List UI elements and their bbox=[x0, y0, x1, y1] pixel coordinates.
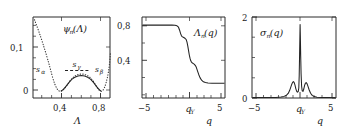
panel-3-xtick-max: 5 bbox=[328, 103, 333, 113]
three-panel-figure: s α s γ s β ψ n (Λ) 0,1 0 0,4 0,8 bbox=[0, 0, 346, 130]
panel-3-xtick-min: −5 bbox=[248, 103, 261, 113]
panel-1-xtick-1: 0,8 bbox=[92, 103, 106, 113]
panel-2-xtick-max: 5 bbox=[217, 103, 222, 113]
panel-3-plot: σ n (q) 2 0 −5 q Y 5 q bbox=[226, 0, 346, 130]
panel-1-xaxis-label: Λ bbox=[73, 115, 81, 126]
qy-subscript: Y bbox=[191, 108, 196, 115]
annotation-s-beta: s β bbox=[95, 65, 104, 76]
panel-1-ytick-0: 0,1 bbox=[10, 43, 24, 53]
s-gamma-label: s bbox=[73, 60, 77, 69]
panel-1-xtick-0: 0,4 bbox=[53, 103, 67, 113]
panel-3-xtick-qy: q Y bbox=[296, 103, 306, 115]
panel-2-ytick-0: 0,8 bbox=[117, 21, 131, 31]
panel-2-plot: Λ n (q) 0,8 0,4 −5 q Y 5 q bbox=[112, 0, 230, 130]
s-gamma-sub: γ bbox=[77, 63, 81, 71]
panel-1-ytick-1: 0 bbox=[23, 86, 28, 96]
panel-2-xtick-min: −5 bbox=[138, 103, 151, 113]
panel-1-curve-title: ψ n (Λ) bbox=[63, 23, 87, 35]
panel-psi-n-lambda: s α s γ s β ψ n (Λ) 0,1 0 0,4 0,8 bbox=[0, 0, 116, 130]
panel-1-plot: s α s γ s β ψ n (Λ) 0,1 0 0,4 0,8 bbox=[0, 0, 116, 130]
panel-2-xaxis-label: q bbox=[206, 115, 212, 126]
panel-3-curve-title: σ n (q) bbox=[260, 27, 284, 39]
panel-3-ytick-0: 2 bbox=[242, 13, 247, 23]
panel-3-ytick-1: 0 bbox=[242, 94, 247, 104]
panel-sigma-n-q: σ n (q) 2 0 −5 q Y 5 q bbox=[226, 0, 346, 130]
panel-3-xaxis-label: q bbox=[317, 115, 323, 126]
lambda-argument: (q) bbox=[204, 27, 218, 38]
panel-3-x-ticks bbox=[256, 17, 332, 98]
sigma-argument: (q) bbox=[270, 27, 284, 38]
panel-2-curve-title: Λ n (q) bbox=[193, 27, 218, 39]
annotation-s-alpha: s α bbox=[36, 65, 45, 75]
panel-lambda-n-q: Λ n (q) 0,8 0,4 −5 q Y 5 q bbox=[112, 0, 230, 130]
s-beta-label: s bbox=[95, 65, 99, 74]
panel-2-ytick-1: 0,4 bbox=[117, 56, 131, 66]
lambda-symbol: Λ bbox=[193, 27, 201, 38]
s-beta-sub: β bbox=[99, 68, 104, 76]
s-alpha-label: s bbox=[36, 65, 40, 74]
s-alpha-sub: α bbox=[41, 68, 45, 75]
panel-2-xtick-qy: q Y bbox=[186, 103, 196, 115]
psi-argument: (Λ) bbox=[73, 23, 88, 34]
annotation-s-gamma: s γ bbox=[73, 60, 82, 71]
qy-subscript: Y bbox=[301, 108, 306, 115]
